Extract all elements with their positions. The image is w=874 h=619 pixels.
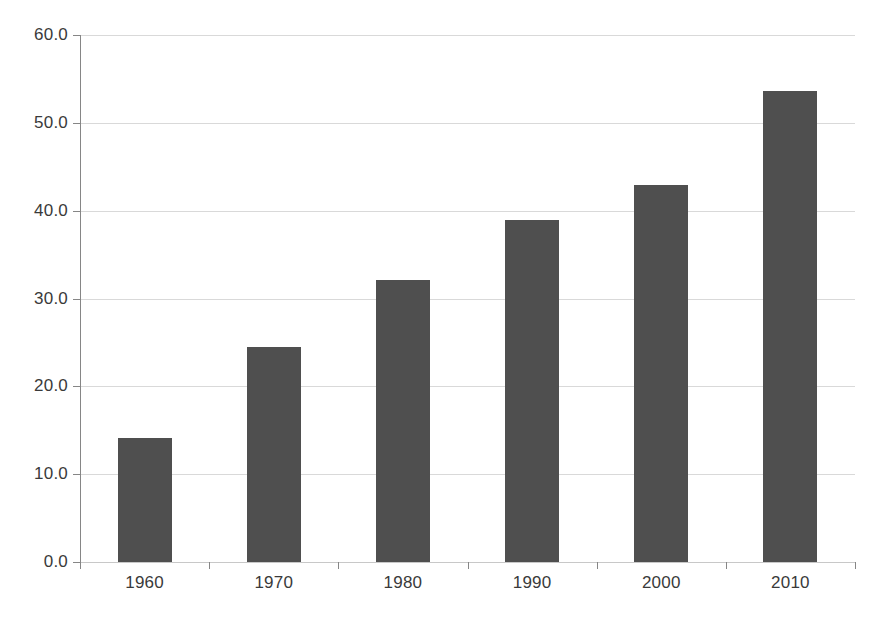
x-axis-tick <box>726 562 727 569</box>
y-axis-line <box>80 35 81 563</box>
y-axis-tick-20-0 <box>73 386 80 387</box>
y-axis-labels-group: 0.010.020.030.040.050.060.0 <box>0 0 68 619</box>
bar <box>376 280 430 562</box>
x-axis-label: 2010 <box>730 573 850 593</box>
y-axis-label: 40.0 <box>6 201 68 221</box>
y-axis-label: 50.0 <box>6 113 68 133</box>
x-axis-label: 1980 <box>343 573 463 593</box>
x-axis-tick <box>468 562 469 569</box>
gridline-30-0 <box>80 299 855 300</box>
y-axis-label: 0.0 <box>6 552 68 572</box>
x-axis-tick <box>855 562 856 569</box>
gridline-40-0 <box>80 211 855 212</box>
y-axis-label: 10.0 <box>6 464 68 484</box>
x-axis-label: 2000 <box>601 573 721 593</box>
y-axis-tick-60-0 <box>73 35 80 36</box>
y-axis-tick-50-0 <box>73 123 80 124</box>
x-axis-tick <box>597 562 598 569</box>
y-axis-label: 60.0 <box>6 25 68 45</box>
bar <box>634 185 688 562</box>
bar-chart: 0.010.020.030.040.050.060.0 196019701980… <box>0 0 874 619</box>
bar <box>505 220 559 562</box>
y-axis-tick-40-0 <box>73 211 80 212</box>
x-axis-label: 1990 <box>472 573 592 593</box>
x-axis-tick <box>80 562 81 569</box>
x-axis-tick <box>338 562 339 569</box>
x-axis-tick <box>209 562 210 569</box>
y-axis-tick-30-0 <box>73 299 80 300</box>
y-axis-label: 30.0 <box>6 289 68 309</box>
y-axis-tick-10-0 <box>73 474 80 475</box>
plot-area <box>80 35 855 562</box>
gridline-50-0 <box>80 123 855 124</box>
x-axis-label: 1960 <box>85 573 205 593</box>
gridline-60-0 <box>80 35 855 36</box>
gridline-20-0 <box>80 386 855 387</box>
gridline-10-0 <box>80 474 855 475</box>
bar <box>247 347 301 562</box>
y-axis-label: 20.0 <box>6 376 68 396</box>
x-axis-label: 1970 <box>214 573 334 593</box>
y-axis-tick-0-0 <box>73 562 80 563</box>
bar <box>763 91 817 562</box>
bar <box>118 438 172 562</box>
